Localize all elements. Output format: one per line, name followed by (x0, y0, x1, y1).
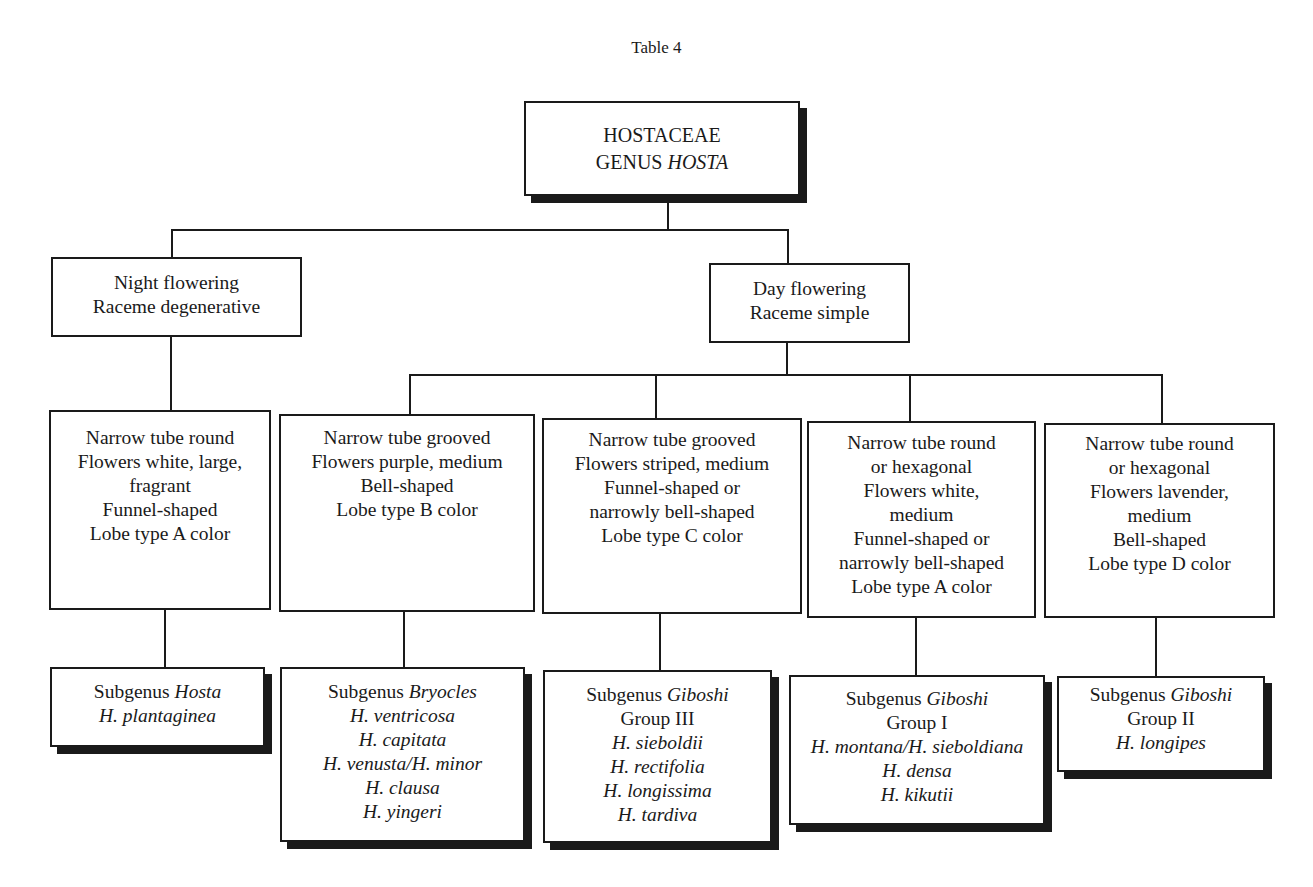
group-label: Group II (1059, 707, 1263, 731)
node-line: Day flowering (711, 277, 908, 301)
node-line: Night flowering (53, 271, 300, 295)
species-name: H. longipes (1059, 731, 1263, 755)
node-trait-group-d: Narrow tube round or hexagonal Flowers w… (807, 421, 1036, 618)
node-line: Narrow tube grooved (281, 426, 533, 450)
subgenus-name: Giboshi (926, 688, 988, 709)
node-line: Lobe type A color (51, 522, 269, 546)
connector (786, 343, 788, 376)
subgenus-label: Subgenus Bryocles (282, 680, 523, 704)
subgenus-name: Giboshi (1170, 684, 1232, 705)
subgenus-name: Giboshi (667, 684, 729, 705)
node-line: Raceme degenerative (53, 295, 300, 319)
node-subgenus-giboshi-group-ii: Subgenus Giboshi Group II H. longipes (1057, 676, 1265, 772)
subgenus-prefix: Subgenus (846, 688, 927, 709)
node-line: medium (1046, 504, 1273, 528)
group-label: Group I (791, 711, 1043, 735)
group-label: Group III (545, 707, 770, 731)
root-genus-label: GENUS (596, 151, 668, 173)
connector (409, 374, 1163, 376)
node-subgenus-giboshi-group-i: Subgenus Giboshi Group I H. montana/H. s… (789, 675, 1045, 825)
node-trait-group-a: Narrow tube round Flowers white, large, … (49, 410, 271, 610)
node-line: or hexagonal (1046, 456, 1273, 480)
subgenus-prefix: Subgenus (586, 684, 667, 705)
node-subgenus-bryocles: Subgenus Bryocles H. ventricosa H. capit… (280, 667, 525, 842)
node-subgenus-hosta: Subgenus Hosta H. plantaginea (50, 667, 265, 747)
node-line: Flowers striped, medium (544, 452, 800, 476)
node-line: Flowers lavender, (1046, 480, 1273, 504)
species-name: H. kikutii (791, 783, 1043, 807)
connector (403, 612, 405, 668)
connector (170, 337, 172, 411)
table-title: Table 4 (0, 38, 1313, 58)
connector (787, 229, 789, 264)
node-line: narrowly bell-shaped (544, 500, 800, 524)
subgenus-label: Subgenus Giboshi (791, 687, 1043, 711)
node-line: Flowers white, (809, 479, 1034, 503)
species-name: H. plantaginea (52, 704, 263, 728)
node-line: Flowers purple, medium (281, 450, 533, 474)
root-genus-name: HOSTA (667, 151, 728, 173)
connector (659, 614, 661, 670)
node-line: Lobe type B color (281, 498, 533, 522)
subgenus-prefix: Subgenus (94, 681, 175, 702)
node-line: Narrow tube grooved (544, 428, 800, 452)
node-line: medium (809, 503, 1034, 527)
node-trait-group-c: Narrow tube grooved Flowers striped, med… (542, 418, 802, 614)
subgenus-name: Hosta (175, 681, 222, 702)
node-line: Lobe type A color (809, 575, 1034, 599)
species-name: H. rectifolia (545, 755, 770, 779)
subgenus-label: Subgenus Giboshi (1059, 683, 1263, 707)
connector (164, 610, 166, 668)
species-name: H. ventricosa (282, 704, 523, 728)
node-line: Flowers white, large, (51, 450, 269, 474)
connector (909, 374, 911, 421)
node-trait-group-e: Narrow tube round or hexagonal Flowers l… (1044, 423, 1275, 618)
species-name: H. densa (791, 759, 1043, 783)
node-line: narrowly bell-shaped (809, 551, 1034, 575)
connector (915, 618, 917, 676)
node-line: Narrow tube round (809, 431, 1034, 455)
species-name: H. venusta/H. minor (282, 752, 523, 776)
node-line: Funnel-shaped or (809, 527, 1034, 551)
node-line: Funnel-shaped or (544, 476, 800, 500)
connector (1161, 374, 1163, 424)
subgenus-label: Subgenus Hosta (52, 680, 263, 704)
subgenus-prefix: Subgenus (328, 681, 409, 702)
root-genus: GENUS HOSTA (526, 149, 798, 176)
subgenus-label: Subgenus Giboshi (545, 683, 770, 707)
species-name: H. clausa (282, 776, 523, 800)
node-line: fragrant (51, 474, 269, 498)
node-line: Lobe type C color (544, 524, 800, 548)
species-name: H. montana/H. sieboldiana (791, 735, 1043, 759)
node-line: Funnel-shaped (51, 498, 269, 522)
connector (655, 374, 657, 419)
species-name: H. capitata (282, 728, 523, 752)
subgenus-name: Bryocles (409, 681, 477, 702)
connector (171, 229, 173, 258)
root-family: HOSTACEAE (526, 122, 798, 149)
node-line: Bell-shaped (281, 474, 533, 498)
connector (1155, 618, 1157, 677)
node-subgenus-giboshi-group-iii: Subgenus Giboshi Group III H. sieboldii … (543, 670, 772, 843)
species-name: H. longissima (545, 779, 770, 803)
species-name: H. yingeri (282, 800, 523, 824)
connector (171, 229, 789, 231)
species-name: H. tardiva (545, 803, 770, 827)
node-line: Narrow tube round (1046, 432, 1273, 456)
connector (409, 374, 411, 415)
node-line: Lobe type D color (1046, 552, 1273, 576)
node-line: Raceme simple (711, 301, 908, 325)
subgenus-prefix: Subgenus (1090, 684, 1171, 705)
node-line: Bell-shaped (1046, 528, 1273, 552)
node-line: Narrow tube round (51, 426, 269, 450)
node-trait-group-b: Narrow tube grooved Flowers purple, medi… (279, 414, 535, 612)
connector (667, 196, 669, 231)
node-line: or hexagonal (809, 455, 1034, 479)
node-day-flowering: Day flowering Raceme simple (709, 263, 910, 343)
species-name: H. sieboldii (545, 731, 770, 755)
root-node-hostaceae: HOSTACEAE GENUS HOSTA (524, 101, 800, 196)
node-night-flowering: Night flowering Raceme degenerative (51, 257, 302, 337)
